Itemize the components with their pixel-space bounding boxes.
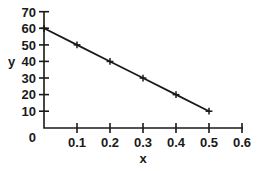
data-point-marker [140,75,147,82]
y-tick-label-40: 40 [22,54,36,69]
y-tick-label-0: 0 [29,130,36,145]
data-point-marker [107,58,114,65]
x-axis-title: x [139,151,147,166]
data-point-marker [206,108,213,115]
y-tick-label-70: 70 [22,5,36,20]
x-tick-label-0-2: 0.2 [101,135,119,150]
data-point-marker [74,41,81,48]
axes-lines [44,11,243,128]
x-axis-tick-labels: 0.1 0.2 0.3 0.4 0.5 0.6 [68,135,251,150]
series-line [44,28,209,111]
y-tick-label-30: 30 [22,71,36,86]
y-tick-label-10: 10 [22,104,36,119]
line-chart: 70 60 50 40 30 20 10 0 0.1 0.2 0.3 0.4 0… [0,0,258,171]
data-point-marker [41,25,48,32]
chart-canvas: 70 60 50 40 30 20 10 0 0.1 0.2 0.3 0.4 0… [0,0,258,171]
x-tick-label-0-3: 0.3 [134,135,152,150]
y-axis-title: y [8,54,16,69]
y-axis-tick-labels: 70 60 50 40 30 20 10 0 [22,5,36,146]
data-series [41,25,213,115]
y-tick-label-20: 20 [22,87,36,102]
x-tick-label-0-5: 0.5 [200,135,218,150]
y-tick-label-60: 60 [22,21,36,36]
x-tick-label-0-4: 0.4 [167,135,186,150]
x-tick-label-0-6: 0.6 [233,135,251,150]
data-point-marker [173,91,180,98]
x-tick-label-0-1: 0.1 [68,135,86,150]
y-tick-label-50: 50 [22,38,36,53]
